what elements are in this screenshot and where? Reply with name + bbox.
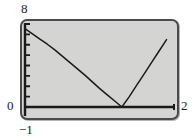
plot-svg — [22, 21, 177, 118]
y-axis-zero-label: 0 — [7, 99, 14, 112]
plot-panel — [20, 19, 179, 120]
x-axis-max-label: 2 — [181, 99, 188, 112]
y-axis-max-label: 8 — [21, 2, 28, 15]
figure-root: 8 0 −1 2 — [0, 0, 195, 140]
x-axis-min-label: −1 — [19, 123, 33, 136]
plot-area — [22, 21, 177, 118]
